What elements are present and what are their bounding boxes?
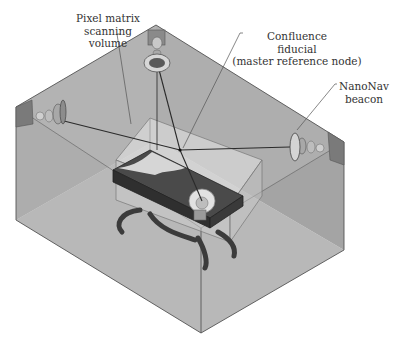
label-line: Confluence <box>222 30 372 43</box>
confluence-fiducial-label: Confluence fiducial (master reference no… <box>222 30 372 68</box>
label-line: scanning <box>58 25 158 38</box>
pixel-matrix-label: Pixel matrix scanning volume <box>58 12 158 50</box>
label-line: NanoNav <box>334 80 394 93</box>
label-line: Pixel matrix <box>58 12 158 25</box>
label-line: (master reference node) <box>222 55 372 68</box>
nanonav-beacon-label: NanoNav beacon <box>334 80 394 105</box>
label-line: volume <box>58 37 158 50</box>
label-line: beacon <box>334 93 394 106</box>
label-line: fiducial <box>222 43 372 56</box>
confluence-fiducial <box>178 148 181 151</box>
diagram-stage: Pixel matrix scanning volume Confluence … <box>0 0 396 351</box>
